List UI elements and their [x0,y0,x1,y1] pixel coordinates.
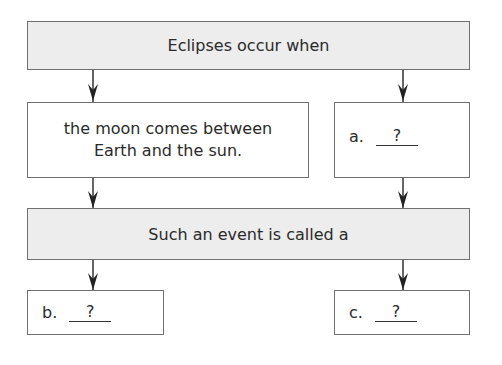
arrow-left-to-second [88,178,98,208]
second-box: Such an event is called a [27,208,470,260]
answer-a-blank[interactable]: ? [376,127,418,146]
middle-left-box: the moon comes between Earth and the sun… [27,102,309,178]
answer-box-c: c. ? [334,290,470,335]
answer-b-label: b. [42,303,57,322]
middle-left-line-2: Earth and the sun. [94,140,242,162]
answer-c-blank[interactable]: ? [375,303,417,322]
arrow-second-to-b [88,260,98,290]
second-box-text: Such an event is called a [148,225,348,244]
answer-c-label: c. [349,303,363,322]
arrow-top-to-left [88,70,98,102]
arrow-right-to-second [398,178,408,208]
answer-box-a: a. ? [334,102,470,178]
answer-box-b: b. ? [27,290,164,335]
top-box: Eclipses occur when [27,21,470,70]
top-box-text: Eclipses occur when [168,36,330,55]
arrow-top-to-right [398,70,408,102]
arrow-second-to-c [398,260,408,290]
answer-a-label: a. [349,127,364,146]
answer-b-blank[interactable]: ? [69,303,111,322]
middle-left-line-1: the moon comes between [64,118,272,140]
